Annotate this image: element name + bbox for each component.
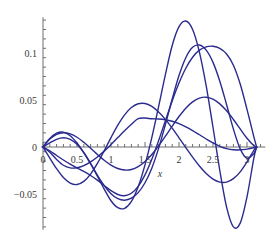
x-tick-label: 2 — [177, 154, 182, 165]
chart-canvas: 00.511.522.53−0.0500.050.1x — [0, 0, 278, 242]
y-tick-label: 0.1 — [25, 48, 38, 59]
curve-curve-6 — [43, 45, 257, 200]
y-tick-label: 0 — [32, 142, 37, 153]
x-axis-label: x — [157, 168, 163, 179]
x-tick-label: 0.5 — [71, 154, 84, 165]
y-tick-label: 0.05 — [20, 95, 38, 106]
x-tick-label: 1 — [109, 154, 114, 165]
x-tick-label: 0 — [41, 154, 46, 165]
plot-area: 00.511.522.53−0.0500.050.1x — [0, 0, 278, 242]
x-tick-label: 2.5 — [207, 154, 220, 165]
y-tick-label: −0.05 — [14, 189, 37, 200]
x-tick-label: 3 — [245, 154, 250, 165]
curves-layer — [43, 21, 257, 228]
x-tick-label: 1.5 — [139, 154, 152, 165]
